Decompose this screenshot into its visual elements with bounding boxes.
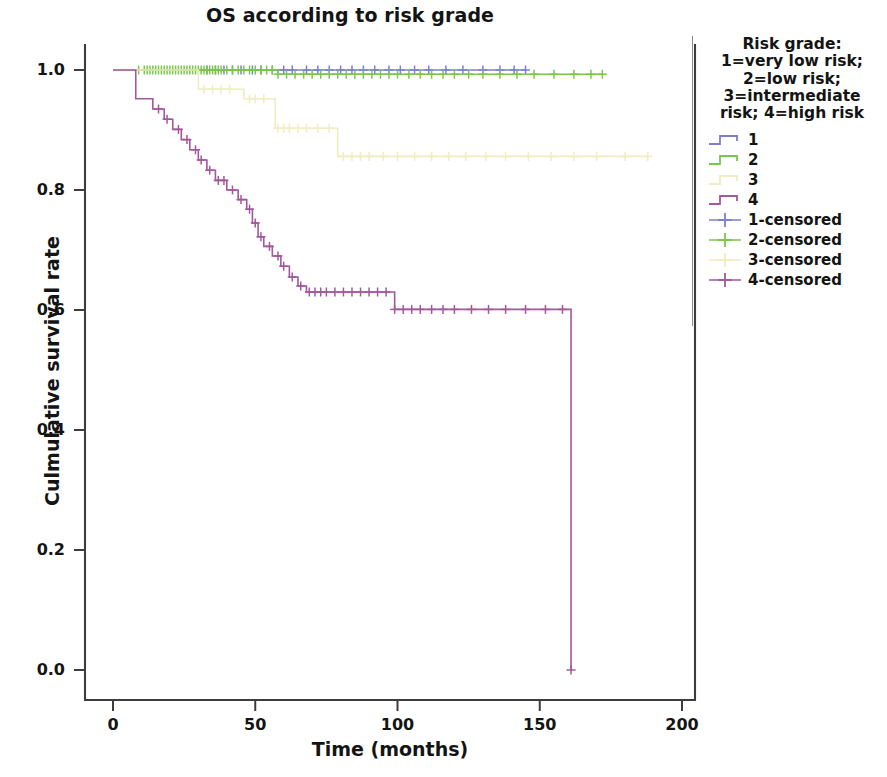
censor-mark [427, 305, 436, 314]
legend-title: Risk grade: 1=very low risk; 2=low risk;… [697, 36, 887, 123]
legend-label: 4-censored [748, 271, 842, 289]
censor-mark [339, 288, 348, 297]
legend-entry-4-censored[interactable]: 4-censored [707, 270, 887, 290]
censor-mark [251, 94, 260, 103]
censor-mark [285, 124, 294, 133]
censor-mark [208, 85, 217, 94]
censor-mark [467, 305, 476, 314]
censor-mark [567, 666, 576, 675]
legend-entry-2-censored[interactable]: 2-censored [707, 230, 887, 250]
x-tick-label: 0 [83, 715, 143, 734]
censor-mark [481, 152, 490, 161]
censor-mark [547, 152, 556, 161]
legend-label: 3 [748, 171, 758, 189]
censor-mark [347, 288, 356, 297]
censor-mark [302, 124, 311, 133]
y-tick-label: 1.0 [5, 60, 65, 79]
censor-mark [373, 288, 382, 297]
censor-mark [308, 70, 317, 79]
censor-mark [541, 305, 550, 314]
censor-mark [501, 152, 510, 161]
censor-mark [379, 152, 388, 161]
censor-mark [558, 305, 567, 314]
censor-mark [356, 288, 365, 297]
censor-mark [410, 152, 419, 161]
x-tick-label: 200 [652, 715, 712, 734]
censor-mark [322, 288, 331, 297]
censor-mark [450, 70, 459, 79]
censor-mark [356, 152, 365, 161]
censor-mark [382, 288, 391, 297]
legend-step-icon [707, 171, 745, 189]
censor-mark [461, 152, 470, 161]
series-2 [113, 66, 607, 79]
series-3 [113, 70, 652, 161]
censor-mark [521, 305, 530, 314]
legend-entry-4[interactable]: 4 [707, 190, 887, 210]
censor-mark [569, 152, 578, 161]
censor-mark [464, 70, 473, 79]
legend-label: 4 [748, 191, 758, 209]
censor-mark [384, 70, 393, 79]
x-tick-label: 150 [510, 715, 570, 734]
censor-mark [330, 288, 339, 297]
legend-entry-1[interactable]: 1 [707, 130, 887, 150]
censor-mark [598, 70, 607, 79]
censor-mark [592, 152, 601, 161]
legend-censor-icon [707, 211, 745, 229]
legend-entry-3[interactable]: 3 [707, 170, 887, 190]
censor-mark [376, 70, 385, 79]
tick-marks [74, 70, 682, 711]
censor-mark [458, 66, 467, 75]
y-axis-title: Culmulative survival rate [41, 171, 63, 571]
censor-mark [228, 186, 237, 195]
censor-mark [325, 124, 334, 133]
censor-mark [450, 305, 459, 314]
legend-entry-3-censored[interactable]: 3-censored [707, 250, 887, 270]
censor-mark [495, 70, 504, 79]
y-tick-label: 0.0 [5, 660, 65, 679]
legend-step-icon [707, 151, 745, 169]
x-tick-label: 50 [225, 715, 285, 734]
censor-mark [407, 305, 416, 314]
censor-mark [274, 70, 283, 79]
censor-mark [268, 66, 277, 75]
censor-mark [365, 288, 374, 297]
censor-mark [313, 124, 322, 133]
legend-entry-2[interactable]: 2 [707, 150, 887, 170]
censor-mark [501, 305, 510, 314]
censor-mark [342, 70, 351, 79]
censor-mark [390, 305, 399, 314]
censor-mark [524, 152, 533, 161]
legend-label: 3-censored [748, 251, 842, 269]
censor-mark [521, 66, 530, 75]
censor-mark [225, 85, 234, 94]
legend-entries: 12341-censored2-censored3-censored4-cens… [707, 130, 887, 290]
censor-mark [393, 152, 402, 161]
legend-step-icon [707, 131, 745, 149]
censor-mark [478, 70, 487, 79]
censor-mark [444, 152, 453, 161]
censor-mark [530, 70, 539, 79]
censor-mark [586, 70, 595, 79]
legend-step-icon [707, 191, 745, 209]
censor-mark [399, 305, 408, 314]
legend-label: 2-censored [748, 231, 842, 249]
censor-mark [569, 70, 578, 79]
censor-mark [200, 85, 209, 94]
legend-divider [692, 36, 693, 326]
legend-censor-icon [707, 231, 745, 249]
censor-mark [154, 105, 163, 114]
censor-mark [325, 70, 334, 79]
x-axis-title: Time (months) [85, 738, 695, 760]
censor-mark [293, 124, 302, 133]
axis-frame [85, 44, 695, 700]
censor-mark [359, 70, 368, 79]
censor-mark [259, 94, 268, 103]
censor-mark [416, 305, 425, 314]
censor-mark [365, 152, 374, 161]
legend-label: 1-censored [748, 211, 842, 229]
legend-entry-1-censored[interactable]: 1-censored [707, 210, 887, 230]
censor-mark [404, 70, 413, 79]
series-layer [113, 66, 652, 675]
